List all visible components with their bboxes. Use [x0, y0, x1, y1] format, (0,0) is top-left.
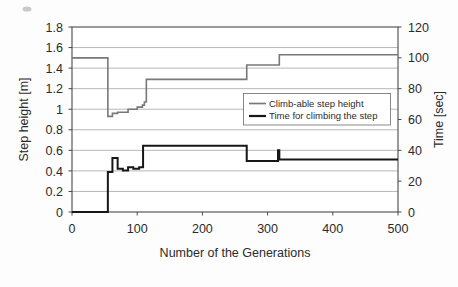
xtick-label: 200	[192, 222, 213, 236]
x-axis-tick-labels: 0 100 200 300 400 500	[69, 222, 409, 236]
y2tick-label: 100	[408, 51, 429, 65]
ytick-label: 1.4	[46, 62, 63, 76]
ytick-label: 0.8	[46, 123, 63, 137]
y2tick-label: 120	[408, 21, 429, 35]
xtick-label: 500	[388, 222, 409, 236]
legend-label-climbable-step-height: Climb-able step height	[269, 98, 364, 109]
figure-container: 1.8 1.6 1.4 1.2 1 0.8 0.6 0.4 0.2 0 120 …	[0, 0, 458, 287]
y2-axis-title: Time [sec]	[432, 91, 446, 148]
ytick-label: 0.2	[46, 185, 63, 199]
line-chart: 1.8 1.6 1.4 1.2 1 0.8 0.6 0.4 0.2 0 120 …	[0, 0, 458, 287]
legend: Climb-able step height Time for climbing…	[244, 94, 391, 126]
ytick-label: 0.4	[46, 165, 63, 179]
y2tick-label: 0	[408, 206, 415, 220]
x-axis-title: Number of the Generations	[160, 246, 311, 260]
ytick-label: 1.2	[46, 82, 63, 96]
y2tick-label: 80	[408, 82, 422, 96]
xtick-label: 300	[257, 222, 278, 236]
legend-label-time-for-climbing: Time for climbing the step	[269, 110, 377, 121]
y2tick-label: 20	[408, 175, 422, 189]
xtick-label: 0	[69, 222, 76, 236]
ytick-label: 1.6	[46, 41, 63, 55]
xtick-label: 400	[322, 222, 343, 236]
y2tick-label: 40	[408, 144, 422, 158]
ytick-label: 0	[56, 206, 63, 220]
xtick-label: 100	[127, 222, 148, 236]
y2tick-label: 60	[408, 113, 422, 127]
ytick-label: 1	[56, 103, 63, 117]
y-axis-title: Step height [m]	[17, 77, 31, 161]
ytick-label: 1.8	[46, 21, 63, 35]
right-axis-tick-labels: 120 100 80 60 40 20 0	[408, 21, 429, 220]
scan-artifact	[23, 6, 32, 11]
ytick-label: 0.6	[46, 144, 63, 158]
left-axis-tick-labels: 1.8 1.6 1.4 1.2 1 0.8 0.6 0.4 0.2 0	[46, 21, 63, 220]
